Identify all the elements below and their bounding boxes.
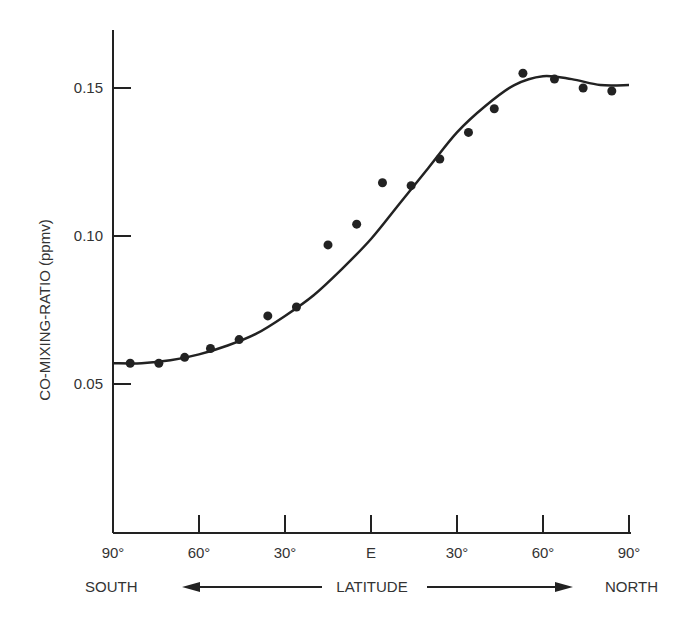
- data-point: [435, 155, 444, 164]
- north-label: NORTH: [605, 578, 658, 595]
- x-tick-label: 60°: [532, 544, 555, 561]
- x-axis-label: LATITUDE: [336, 578, 407, 595]
- data-point: [235, 335, 244, 344]
- arrow-right-icon: [555, 582, 573, 592]
- x-tick-label: 30°: [446, 544, 469, 561]
- x-tick-label: 90°: [618, 544, 641, 561]
- data-point: [292, 303, 301, 312]
- x-tick-label: 30°: [274, 544, 297, 561]
- data-point: [607, 86, 616, 95]
- data-point: [579, 84, 588, 93]
- y-tick-label: 0.15: [74, 79, 103, 96]
- y-axis-label: CO-MIXING-RATIO (ppmv): [36, 219, 53, 400]
- y-tick-label: 0.10: [74, 227, 103, 244]
- data-point: [180, 353, 189, 362]
- data-point: [490, 104, 499, 113]
- plot-area: 0.050.100.1590°60°30°E30°60°90°CO-MIXING…: [0, 0, 688, 627]
- data-point: [154, 359, 163, 368]
- data-point: [464, 128, 473, 137]
- data-point: [352, 220, 361, 229]
- x-tick-label: 90°: [102, 544, 125, 561]
- data-point: [263, 311, 272, 320]
- chart: 0.050.100.1590°60°30°E30°60°90°CO-MIXING…: [0, 0, 688, 627]
- data-point: [518, 69, 527, 78]
- y-tick-label: 0.05: [74, 375, 103, 392]
- fit-curve: [113, 76, 629, 364]
- data-point: [378, 178, 387, 187]
- south-label: SOUTH: [85, 578, 138, 595]
- data-point: [324, 240, 333, 249]
- arrow-left-icon: [182, 582, 200, 592]
- x-tick-label: E: [366, 544, 376, 561]
- x-tick-label: 60°: [188, 544, 211, 561]
- data-point: [126, 359, 135, 368]
- data-point: [206, 344, 215, 353]
- data-point: [407, 181, 416, 190]
- data-point: [550, 75, 559, 84]
